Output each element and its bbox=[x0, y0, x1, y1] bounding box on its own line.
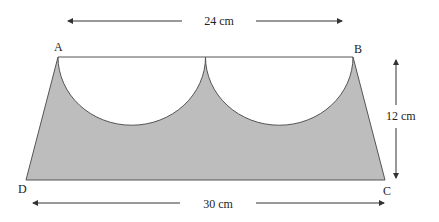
vertex-label-c: C bbox=[383, 184, 391, 198]
bottom-dimension-label: 30 cm bbox=[203, 197, 233, 211]
top-dimension-label: 24 cm bbox=[204, 14, 234, 28]
vertex-label-b: B bbox=[354, 42, 362, 56]
height-dimension-label: 12 cm bbox=[386, 109, 416, 123]
trapezium-diagram: 24 cm 30 cm 12 cm A B C D bbox=[0, 0, 439, 222]
shaded-region bbox=[26, 57, 385, 180]
vertex-label-a: A bbox=[54, 40, 63, 54]
vertex-label-d: D bbox=[18, 182, 27, 196]
